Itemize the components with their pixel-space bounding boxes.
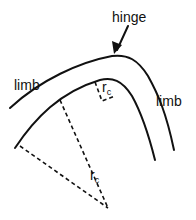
limb-right-label: limb (156, 93, 182, 109)
fold-diagram: hinge limb limb rc rc (0, 0, 196, 220)
limb-left-label: limb (14, 77, 40, 93)
hinge-label: hinge (112, 9, 146, 25)
outer-fold-surface (10, 56, 174, 150)
small-radius-label: rc (102, 79, 112, 97)
large-radius-label: rc (90, 167, 100, 185)
